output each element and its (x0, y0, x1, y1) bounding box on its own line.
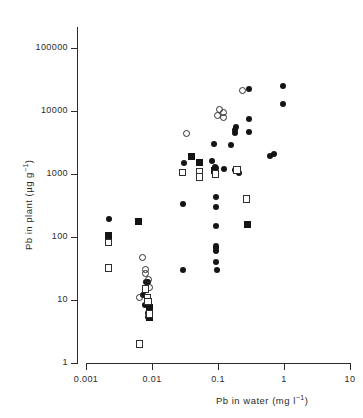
data-point-open-square (144, 298, 152, 306)
data-point-filled-square (196, 159, 203, 166)
data-point-open-circle (239, 87, 246, 94)
data-point-open-square (105, 264, 113, 272)
data-point-filled-square (135, 218, 142, 225)
data-point-open-circle (183, 130, 190, 137)
data-point-filled-circle (106, 216, 112, 222)
data-point-open-square (136, 340, 144, 348)
data-point-open-square (179, 169, 187, 177)
data-point-filled-circle (246, 86, 252, 92)
data-point-filled-circle (213, 223, 219, 229)
data-point-filled-circle (213, 194, 219, 200)
data-point-open-circle (136, 294, 143, 301)
data-point-filled-circle (246, 116, 252, 122)
data-point-filled-circle (271, 151, 277, 157)
data-point-filled-circle (180, 267, 186, 273)
data-point-open-circle (220, 114, 227, 121)
scatter-plot-figure: 110100100010000100000 0.0010.010.1110 Pb… (0, 0, 363, 418)
data-point-filled-circle (214, 267, 220, 273)
data-point-open-square (196, 173, 204, 181)
data-point-filled-square (244, 221, 251, 228)
data-point-filled-circle (180, 201, 186, 207)
data-point-open-square (142, 285, 150, 293)
data-point-filled-circle (213, 204, 219, 210)
data-point-filled-circle (181, 160, 187, 166)
data-point-filled-circle (221, 166, 227, 172)
data-point-open-circle (139, 254, 146, 261)
data-point-filled-circle (213, 259, 219, 265)
data-point-filled-circle (280, 101, 286, 107)
data-point-filled-circle (228, 142, 234, 148)
data-point-open-square (105, 239, 113, 247)
data-point-filled-circle (213, 248, 219, 254)
data-point-open-square (233, 166, 241, 174)
data-point-open-square (146, 310, 154, 318)
data-point-filled-circle (280, 83, 286, 89)
data-point-filled-circle (246, 129, 252, 135)
data-point-filled-square (188, 153, 195, 160)
data-points-layer (0, 0, 363, 418)
data-point-open-square (212, 170, 220, 178)
data-point-filled-circle (232, 130, 238, 136)
data-point-open-circle (145, 276, 152, 283)
data-point-open-square (243, 195, 251, 203)
data-point-filled-circle (211, 141, 217, 147)
